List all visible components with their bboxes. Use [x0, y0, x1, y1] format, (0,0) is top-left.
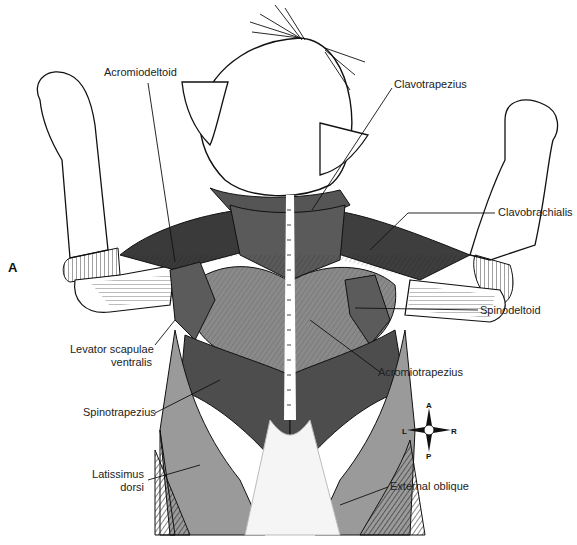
- panel-letter: A: [8, 260, 17, 275]
- compass-anterior: A: [426, 401, 432, 410]
- spine-midline: [284, 195, 296, 420]
- label-spinodeltoid: Spinodeltoid: [480, 304, 541, 317]
- compass-right: R: [451, 427, 457, 436]
- anatomy-figure: A Acromiodeltoid Clavotrapezius Clavobra…: [0, 0, 577, 545]
- label-spinotrapezius: Spinotrapezius: [83, 406, 156, 419]
- label-clavobrachialis: Clavobrachialis: [498, 206, 573, 219]
- label-external-oblique: External oblique: [390, 480, 469, 493]
- label-clavotrapezius: Clavotrapezius: [394, 78, 467, 91]
- muscle-clavotrapezius: [120, 188, 470, 280]
- label-levator-scapulae-ventralis: Levator scapulae ventralis: [70, 343, 152, 369]
- label-latissimus-dorsi: Latissimus dorsi: [80, 468, 144, 494]
- compass-left: L: [402, 427, 407, 436]
- label-acromiodeltoid: Acromiodeltoid: [104, 66, 177, 79]
- compass-posterior: P: [426, 452, 431, 461]
- left-forelimb: [37, 72, 178, 313]
- label-acromiotrapezius: Acromiotrapezius: [378, 366, 463, 379]
- cat-back-muscles-illustration: [0, 0, 577, 545]
